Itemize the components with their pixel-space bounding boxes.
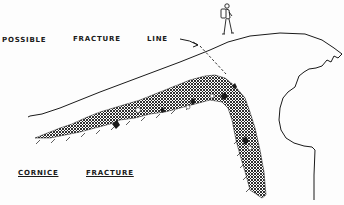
hatched-snow-layer (35, 75, 266, 198)
hatch-fringe (36, 106, 250, 192)
cornice-fracture-diagram: POSSIBLE FRACTURE LINE CORNICE FRACTURE (0, 0, 344, 205)
fracture-line-dashed (200, 46, 226, 74)
pointer-arrow-icon (180, 39, 198, 47)
label-fracture: FRACTURE (73, 35, 121, 43)
title-cornice: CORNICE (18, 169, 58, 177)
cornice-lip-line (279, 54, 342, 200)
title-fracture: FRACTURE (86, 169, 134, 177)
hiker-figure-icon (221, 4, 234, 34)
label-line: LINE (147, 35, 168, 43)
label-possible: POSSIBLE (2, 36, 46, 44)
